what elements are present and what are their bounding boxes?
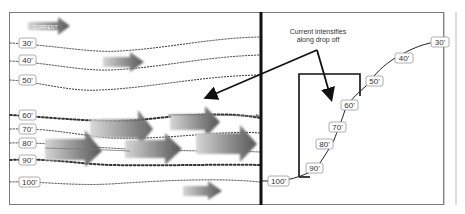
- profile-label-100: 100': [268, 176, 289, 186]
- svg-text:50': 50': [369, 77, 380, 86]
- contour-30: [10, 37, 260, 51]
- svg-text:70': 70': [22, 125, 33, 134]
- svg-text:50': 50': [22, 76, 33, 85]
- profile-label-40: 40': [395, 53, 413, 63]
- svg-text:30': 30': [22, 39, 33, 48]
- profile-label-90: 90': [306, 163, 323, 173]
- profile-label-70: 70': [329, 122, 346, 132]
- plan-label-90: 90': [19, 155, 36, 165]
- current-arrow-7: [183, 181, 222, 200]
- svg-text:100': 100': [271, 177, 286, 186]
- svg-text:90': 90': [309, 164, 320, 173]
- plan-label-60: 60': [19, 110, 36, 120]
- profile-label-60: 60': [341, 100, 358, 110]
- svg-text:90': 90': [22, 156, 33, 165]
- contour-50: [10, 75, 260, 90]
- annotation-line1: Current intensifies: [290, 28, 347, 35]
- legend-current-label: CURRENT: [33, 24, 57, 30]
- svg-text:30': 30': [435, 38, 446, 47]
- svg-text:40': 40': [399, 54, 410, 63]
- plan-label-100: 100': [19, 177, 40, 187]
- svg-text:40': 40': [22, 56, 33, 65]
- svg-text:70': 70': [332, 123, 343, 132]
- contour-90: [10, 160, 260, 166]
- plan-label-70: 70': [19, 124, 36, 134]
- current-dropoff-diagram: Current intensifies along drop off 30' 4…: [0, 0, 465, 214]
- profile-label-50: 50': [366, 76, 383, 86]
- annotation-line2: along drop off: [297, 36, 340, 44]
- svg-text:60': 60': [344, 101, 355, 110]
- plan-label-50: 50': [19, 75, 36, 85]
- svg-text:80': 80': [22, 139, 33, 148]
- plan-depth-labels: 30' 40' 50' 60' 70' 80' 90' 100': [19, 38, 40, 187]
- profile-label-30: 30': [431, 37, 449, 47]
- svg-text:80': 80': [319, 140, 330, 149]
- contour-100: [10, 180, 260, 185]
- svg-text:100': 100': [22, 178, 37, 187]
- plan-label-30: 30': [19, 38, 36, 48]
- svg-text:60': 60': [22, 111, 33, 120]
- plan-label-80: 80': [19, 138, 36, 148]
- plan-label-40: 40': [19, 55, 36, 65]
- diagram-frame: [10, 13, 444, 205]
- profile-label-80: 80': [316, 139, 333, 149]
- current-arrows: [28, 17, 257, 200]
